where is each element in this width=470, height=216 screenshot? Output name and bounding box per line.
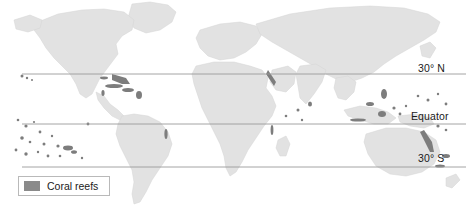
reef-pacific-o xyxy=(81,157,83,159)
landmass-southeast-asia xyxy=(334,76,356,100)
reef-vanuatu xyxy=(71,150,77,154)
legend-label-coral-reefs: Coral reefs xyxy=(47,180,98,192)
reef-indo-a xyxy=(392,106,395,109)
reef-indo-c xyxy=(405,105,407,107)
reef-philippines xyxy=(381,89,387,99)
reef-sri-lanka xyxy=(308,101,312,106)
reef-chagos xyxy=(301,119,303,121)
landmass-india xyxy=(296,64,326,104)
reef-pacific-h xyxy=(51,135,53,137)
reef-maldives xyxy=(297,109,300,112)
reef-hawaii-3 xyxy=(31,79,33,81)
landmass-japan xyxy=(420,42,436,58)
landmass-greenland xyxy=(128,2,176,33)
reef-pacific-l xyxy=(37,151,39,153)
reef-pacific-b xyxy=(24,124,27,127)
reef-belize xyxy=(101,90,104,96)
reef-java xyxy=(350,118,366,121)
reef-pacific-j xyxy=(15,149,18,152)
reef-florida-keys xyxy=(100,77,108,80)
reef-solomon xyxy=(436,124,439,127)
reef-micronesia-c xyxy=(437,93,439,95)
landmass-indonesia xyxy=(344,106,396,124)
reef-micronesia-d xyxy=(445,103,448,106)
reef-hispaniola xyxy=(122,88,134,92)
reef-pacific-g xyxy=(43,143,46,146)
reef-cuba xyxy=(105,84,123,88)
map-legend: Coral reefs xyxy=(18,176,110,196)
reef-hawaii-1 xyxy=(21,75,24,78)
reef-pacific-d xyxy=(39,131,42,134)
reef-borneo-north xyxy=(366,102,374,106)
landmass-new-zealand xyxy=(446,174,460,188)
landmass-central-america xyxy=(96,92,124,120)
landmass-madagascar xyxy=(276,136,290,156)
reef-micronesia-b xyxy=(427,99,430,102)
reef-pacific-k xyxy=(24,152,27,155)
reef-pacific-a xyxy=(17,119,20,122)
landmass-africa xyxy=(192,62,276,176)
reef-brazil xyxy=(164,129,167,139)
reef-pacific-i xyxy=(56,144,59,147)
landmass-south-america xyxy=(116,114,172,204)
reef-indo-b xyxy=(399,113,402,116)
reef-pacific-f xyxy=(29,141,32,144)
reef-hawaii-2 xyxy=(26,77,28,79)
latitude-label-30n: 30° N xyxy=(418,62,445,74)
reef-pacific-n xyxy=(59,155,62,158)
legend-swatch-coral-reefs xyxy=(24,181,40,191)
reef-pacific-e xyxy=(20,136,24,140)
coral-reef-world-map: 30° N Equator 30° S Coral reefs xyxy=(0,0,470,216)
reef-pacific-m xyxy=(47,155,50,158)
reef-solomon-2 xyxy=(445,129,448,132)
latitude-label-equator: Equator xyxy=(411,110,448,122)
reef-east-africa xyxy=(271,125,274,135)
reef-bahamas xyxy=(112,74,130,84)
reef-sulawesi xyxy=(378,111,386,117)
latitude-label-30s: 30° S xyxy=(418,152,444,164)
reef-lesser-antilles xyxy=(136,91,142,99)
reef-seychelles xyxy=(285,115,288,118)
landmass-group xyxy=(14,2,460,204)
landmass-europe xyxy=(196,22,262,60)
reef-fiji xyxy=(63,146,73,151)
reef-pacific-c xyxy=(33,121,35,123)
reef-micronesia-a xyxy=(417,95,420,98)
